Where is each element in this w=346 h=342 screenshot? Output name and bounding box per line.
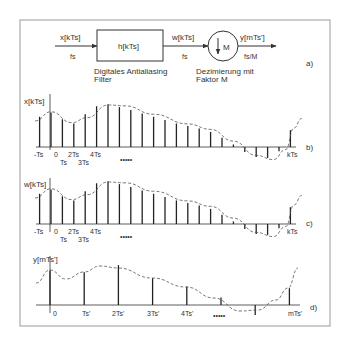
ellipsis: ••••• xyxy=(120,156,133,163)
tick-0: 0 xyxy=(54,151,58,158)
input-rate-label: fs xyxy=(70,53,76,60)
input-signal-label: x[kTs] xyxy=(60,33,80,42)
x-axis-label: mTs' xyxy=(288,310,302,317)
tick-2ts: 2Ts xyxy=(68,151,79,158)
mid-rate-label: fs xyxy=(182,53,188,60)
filter-label: h[kTs] xyxy=(118,42,139,51)
filter-caption-line2: Filter xyxy=(94,75,112,84)
output-signal-label: y[mTs'] xyxy=(240,33,265,42)
x-axis-label: kTs xyxy=(287,228,298,235)
figure-frame xyxy=(20,20,330,326)
stems xyxy=(40,181,291,235)
tick-minus-ts: -Ts xyxy=(34,228,44,235)
y-axis-label: y[mTs'] xyxy=(33,255,58,264)
stems xyxy=(50,265,289,315)
tick-0: 0 xyxy=(53,310,57,317)
tick-ts: Ts xyxy=(60,236,68,243)
stems xyxy=(40,104,291,158)
tick-4ts: 4Ts xyxy=(90,228,101,235)
x-axis-label: kTs xyxy=(287,151,298,158)
tick-0: 0 xyxy=(54,228,58,235)
tick-3ts-prime: 3Ts' xyxy=(147,310,159,317)
panel-b-x-signal: x[kTs] kTs b) -Ts 0 2Ts 4Ts Ts 3Ts ••••• xyxy=(24,94,313,166)
tick-4ts-prime: 4Ts' xyxy=(181,310,193,317)
tick-2ts-prime: 2Ts' xyxy=(112,310,124,317)
y-axis-label: x[kTs] xyxy=(24,97,44,106)
panel-d-y-signal: y[mTs'] mTs' d) 0 Ts' 2Ts' 3Ts' 4Ts' •••… xyxy=(33,255,317,319)
panel-label-c: c) xyxy=(306,219,313,228)
panel-label-d: d) xyxy=(310,303,317,312)
ellipsis: ••••• xyxy=(120,233,133,240)
tick-2ts: 2Ts xyxy=(68,228,79,235)
panel-label-b: b) xyxy=(306,143,313,152)
tick-ts-prime: Ts' xyxy=(82,310,90,317)
output-rate-label: fs/M xyxy=(244,53,257,60)
tick-4ts: 4Ts xyxy=(90,151,101,158)
decimator-symbol: M xyxy=(223,43,230,52)
tick-3ts: 3Ts xyxy=(78,159,89,166)
decimation-diagram: x[kTs] fs h[kTs] Digitales Antialiasing … xyxy=(0,0,346,342)
decimator-caption-line2: Faktor M xyxy=(196,75,228,84)
panel-c-w-signal: w[kTs] kTs c) -Ts 0 2Ts 4Ts Ts 3Ts ••••• xyxy=(23,178,313,243)
dashed-envelope xyxy=(36,266,298,311)
ellipsis: ••••• xyxy=(213,312,226,319)
panel-label-a: a) xyxy=(306,59,313,68)
y-axis-label: w[kTs] xyxy=(23,180,46,189)
tick-minus-ts: -Ts xyxy=(34,151,44,158)
tick-3ts: 3Ts xyxy=(78,236,89,243)
tick-ts: Ts xyxy=(60,159,68,166)
mid-signal-label: w[kTs] xyxy=(171,33,194,42)
block-diagram: x[kTs] fs h[kTs] Digitales Antialiasing … xyxy=(55,30,313,84)
